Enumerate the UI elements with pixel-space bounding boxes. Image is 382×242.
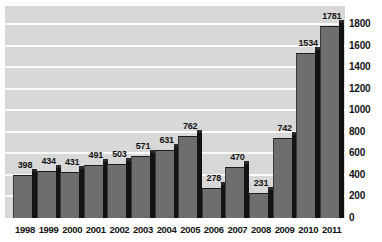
gridline xyxy=(5,23,345,25)
gridline xyxy=(5,66,345,68)
y-tick-1400: 1400 xyxy=(349,61,382,72)
gridline xyxy=(5,131,345,133)
x-axis-tick-labels: 1998199920002001200220032004200520062007… xyxy=(0,224,382,238)
y-tick-600: 600 xyxy=(349,147,382,158)
y-tick-400: 400 xyxy=(349,169,382,180)
y-tick-1200: 1200 xyxy=(349,83,382,94)
y-tick-1600: 1600 xyxy=(349,40,382,51)
gridline xyxy=(5,152,345,154)
plot-area xyxy=(5,6,345,218)
y-tick-200: 200 xyxy=(349,190,382,201)
gridline xyxy=(5,195,345,197)
x-tick-2011: 2011 xyxy=(317,224,347,236)
gridline xyxy=(5,109,345,111)
bar-chart: 3984344314915035716317622784702317421534… xyxy=(0,0,382,242)
y-tick-0: 0 xyxy=(349,212,382,223)
y-axis-tick-labels: 020040060080010001200140016001800 xyxy=(349,0,382,242)
gridline xyxy=(5,45,345,47)
y-tick-800: 800 xyxy=(349,126,382,137)
gridline xyxy=(5,88,345,90)
y-tick-1800: 1800 xyxy=(349,18,382,29)
y-tick-1000: 1000 xyxy=(349,104,382,115)
gridline xyxy=(5,174,345,176)
